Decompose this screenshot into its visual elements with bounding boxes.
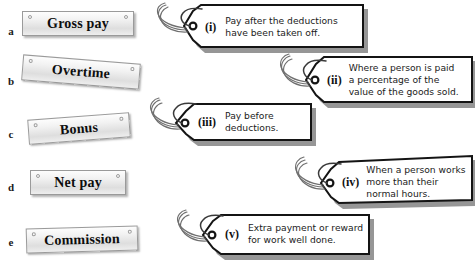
definition-tag-v[interactable]: (v) Extra payment or rewardfor work well… [172,208,372,260]
term-card-label: Net pay [54,175,102,191]
term-card-gross-pay[interactable]: Gross pay [22,11,134,36]
definition-tag-iii-content: (iii) Pay beforedeductions. [198,109,279,135]
card-hole-left-icon [28,15,32,19]
item-letter-c: c [4,129,18,140]
term-card-net-pay[interactable]: Net pay [30,170,126,195]
term-card-label: Commission [44,230,120,248]
term-card-surface: Commission [26,225,139,253]
item-letter-b: b [4,76,18,87]
card-hole-right-icon [128,230,132,234]
definition-tag-v-content: (v) Extra payment or rewardfor work well… [225,220,363,248]
definition-numeral: (ii) [327,73,342,88]
definition-tag-i[interactable]: (i) Pay after the deductionshave been ta… [152,2,364,52]
term-card-overtime[interactable]: Overtime [22,59,140,85]
item-letter-a: a [4,26,18,37]
definition-numeral: (iv) [342,175,359,190]
card-hole-right-icon [124,15,128,19]
term-card-label: Bonus [59,119,98,138]
definition-tag-iii[interactable]: (iii) Pay beforedeductions. [146,98,314,146]
term-card-label: Overtime [51,62,110,83]
term-card-surface: Gross pay [22,11,134,36]
definition-text: Pay beforedeductions. [225,110,279,134]
term-card-commission[interactable]: Commission [26,227,138,252]
definition-tag-ii-content: (ii) Where a person is paida percentage … [327,61,459,99]
definition-numeral: (i) [205,20,216,35]
definition-text: Pay after the deductionshave been taken … [225,15,337,39]
card-hole-left-icon [36,174,40,178]
definition-tag-iv-content: (iv) When a person worksmore than theirn… [342,162,466,202]
term-card-surface: Bonus [27,112,131,144]
term-card-surface: Net pay [30,170,126,195]
card-hole-left-icon [29,59,33,63]
card-hole-left-icon [33,123,37,127]
definition-text: When a person worksmore than theirnormal… [366,164,465,201]
worksheet-canvas: a Gross pay b Overtime c Bonus d Net pay [0,0,475,263]
card-hole-right-icon [130,67,134,71]
definition-tag-i-content: (i) Pay after the deductionshave been ta… [205,11,338,43]
item-letter-e: e [4,237,18,248]
card-hole-left-icon [32,232,36,236]
definition-text: Where a person is paida percentage of th… [349,62,459,99]
item-letter-d: d [4,182,18,193]
term-card-label: Gross pay [47,16,109,32]
definition-numeral: (v) [225,227,239,242]
term-card-surface: Overtime [21,54,141,89]
definition-tag-iv[interactable]: (iv) When a person worksmore than theirn… [290,152,475,210]
definition-numeral: (iii) [198,115,216,130]
term-card-bonus[interactable]: Bonus [28,116,130,141]
card-hole-right-icon [116,174,120,178]
definition-text: Extra payment or rewardfor work well don… [248,222,363,246]
card-hole-right-icon [119,117,123,121]
